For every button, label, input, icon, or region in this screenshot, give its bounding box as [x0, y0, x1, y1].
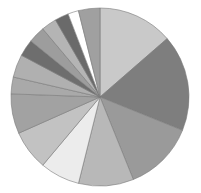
pie-chart — [0, 0, 201, 193]
pie-slices — [11, 8, 189, 186]
